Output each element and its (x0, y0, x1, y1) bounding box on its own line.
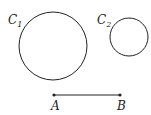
label-c2: C2 (97, 13, 111, 29)
circle-c1 (19, 12, 87, 80)
label-c1: C1 (8, 13, 22, 29)
label-a: A (50, 99, 60, 113)
label-b: B (116, 99, 126, 113)
circle-c2 (110, 18, 148, 56)
point-a (52, 93, 55, 96)
geometry-diagram: C1 C2 A B (0, 0, 151, 115)
point-b (118, 93, 121, 96)
